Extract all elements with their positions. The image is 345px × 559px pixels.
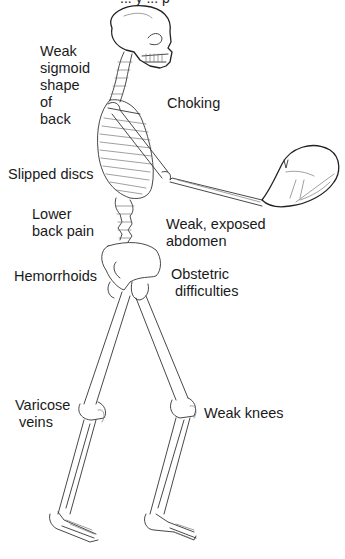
label-lower-back-pain: Lower back pain xyxy=(32,206,94,240)
label-hemorrhoids: Hemorrhoids xyxy=(14,268,97,285)
skull-icon xyxy=(111,6,172,68)
label-slipped-discs: Slipped discs xyxy=(8,166,93,183)
label-weak-sigmoid: Weak sigmoid shape of back xyxy=(40,43,90,128)
label-weak-abdomen: Weak, exposed abdomen xyxy=(166,216,266,250)
ribcage xyxy=(98,100,154,199)
lumbar-vertebrae xyxy=(115,198,134,242)
label-varicose-veins: Varicose veins xyxy=(15,397,70,431)
label-choking: Choking xyxy=(167,95,220,112)
pelvis xyxy=(102,243,161,300)
label-weak-knees: Weak knees xyxy=(204,405,284,422)
neck-vertebrae xyxy=(110,52,132,102)
label-obstetric-difficulties: Obstetric difficulties xyxy=(171,266,238,300)
held-skull-icon xyxy=(262,146,339,207)
legs xyxy=(49,292,196,542)
arm xyxy=(108,102,262,206)
